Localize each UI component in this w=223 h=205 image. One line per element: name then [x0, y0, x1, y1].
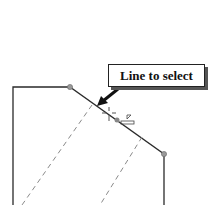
sketch-canvas[interactable]	[0, 0, 223, 205]
arrow-pointer-icon	[97, 89, 118, 106]
endpoint-dot-icon[interactable]	[67, 84, 72, 89]
sketch-profile-left-top[interactable]	[13, 87, 70, 205]
dashed-construction-line-2	[100, 137, 142, 205]
endpoint-dot-icon[interactable]	[161, 151, 166, 156]
callout-label: Line to select	[108, 64, 205, 87]
dashed-construction-line-1	[22, 105, 92, 205]
line-select-cursor-icon	[115, 115, 135, 124]
